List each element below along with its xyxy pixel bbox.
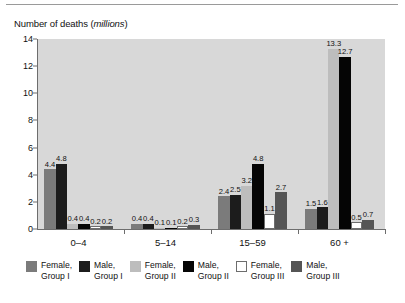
legend-label-line2: Group II xyxy=(198,271,229,282)
chart-title-unit: millions xyxy=(94,18,125,29)
bar-value-label: 0.7 xyxy=(363,211,374,219)
bar[interactable]: 0.4 xyxy=(131,224,142,229)
bar-fill xyxy=(317,207,328,229)
bar-value-label: 0.2 xyxy=(177,218,188,226)
bar-fill xyxy=(44,169,55,229)
legend-label: Male,Group II xyxy=(198,260,229,281)
bar-fill xyxy=(362,220,373,230)
bar-value-label: 1.1 xyxy=(264,205,275,213)
y-tick-label: 10 xyxy=(5,88,33,98)
bar[interactable]: 0.2 xyxy=(177,226,188,229)
legend-label-line1: Male, xyxy=(306,260,339,271)
bar-value-label: 4.8 xyxy=(56,155,67,163)
y-tick-mark xyxy=(33,201,37,202)
bar[interactable]: 0.1 xyxy=(154,228,165,229)
bar[interactable]: 4.4 xyxy=(44,169,55,229)
bar-fill xyxy=(328,49,339,230)
legend-item[interactable]: Male,Group II xyxy=(183,260,229,281)
bar-fill xyxy=(143,224,154,229)
chart-title-close: ) xyxy=(124,18,127,29)
bar-fill xyxy=(275,192,286,229)
bar-value-label: 0.2 xyxy=(90,218,101,226)
y-tick-mark xyxy=(33,66,37,67)
bar[interactable]: 4.8 xyxy=(252,164,263,229)
bar-value-label: 2.4 xyxy=(219,188,230,196)
y-tick-label: 4 xyxy=(5,170,33,180)
bar-fill xyxy=(351,222,362,229)
legend-item[interactable]: Female,Group I xyxy=(26,260,72,281)
legend-label-line2: Group II xyxy=(145,271,176,282)
bar-fill xyxy=(67,224,78,229)
legend-color-swatch xyxy=(130,261,141,272)
chart-legend: Female,Group IMale,Group IFemale,Group I… xyxy=(26,260,340,281)
bar[interactable]: 0.1 xyxy=(165,228,176,229)
bar[interactable]: 2.5 xyxy=(230,195,241,229)
legend-label-line1: Female, xyxy=(41,260,72,271)
legend-label-line2: Group III xyxy=(306,271,339,282)
bar-value-label: 4.4 xyxy=(45,161,56,169)
bar-fill xyxy=(339,57,350,229)
x-tick-mark xyxy=(124,229,125,234)
y-tick-mark xyxy=(33,93,37,94)
bar-group: 0.40.40.10.10.20.3 xyxy=(131,39,199,229)
bar-group: 2.42.53.24.81.12.7 xyxy=(218,39,286,229)
bar[interactable]: 13.3 xyxy=(328,49,339,230)
legend-label: Female,Group II xyxy=(145,260,176,281)
legend-label: Female,Group III xyxy=(251,260,284,281)
bar-value-label: 0.4 xyxy=(79,215,90,223)
bar-fill xyxy=(241,186,252,229)
bar[interactable]: 0.2 xyxy=(90,226,101,229)
bar-value-label: 0.4 xyxy=(132,215,143,223)
x-category-label: 60 + xyxy=(330,237,349,248)
bar[interactable]: 3.2 xyxy=(241,186,252,229)
bar[interactable]: 0.5 xyxy=(351,222,362,229)
legend-item[interactable]: Male,Group I xyxy=(79,260,123,281)
y-tick-mark xyxy=(33,120,37,121)
legend-color-swatch xyxy=(291,261,302,272)
legend-label-line2: Group III xyxy=(251,271,284,282)
y-tick-label: 14 xyxy=(5,34,33,44)
x-tick-mark xyxy=(385,229,386,234)
bar-value-label: 0.1 xyxy=(166,219,177,227)
bar[interactable]: 1.1 xyxy=(264,214,275,229)
bar[interactable]: 1.6 xyxy=(317,207,328,229)
bar[interactable]: 0.4 xyxy=(67,224,78,229)
bar-value-label: 0.4 xyxy=(67,215,78,223)
legend-color-swatch xyxy=(183,261,194,272)
bar-fill xyxy=(305,209,316,229)
bar[interactable]: 0.2 xyxy=(101,226,112,229)
bar[interactable]: 0.4 xyxy=(78,224,89,229)
bar[interactable]: 1.5 xyxy=(305,209,316,229)
bar-value-label: 1.6 xyxy=(317,199,328,207)
bar-group: 1.51.613.312.70.50.7 xyxy=(305,39,373,229)
legend-label-line2: Group I xyxy=(41,271,72,282)
legend-color-swatch xyxy=(79,261,90,272)
bar-fill xyxy=(78,224,89,229)
x-tick-mark xyxy=(298,229,299,234)
bar-value-label: 4.8 xyxy=(253,155,264,163)
bar[interactable]: 4.8 xyxy=(56,164,67,229)
legend-label: Male,Group I xyxy=(94,260,123,281)
top-divider-rule xyxy=(6,4,398,5)
bar-fill xyxy=(177,226,188,229)
bar[interactable]: 2.7 xyxy=(275,192,286,229)
bar-value-label: 12.7 xyxy=(338,48,353,56)
legend-item[interactable]: Male,Group III xyxy=(291,260,339,281)
legend-label-line1: Female, xyxy=(251,260,284,271)
bar-fill xyxy=(188,225,199,229)
bar-fill xyxy=(252,164,263,229)
bar[interactable]: 0.4 xyxy=(143,224,154,229)
x-category-label: 15–59 xyxy=(239,237,265,248)
bar[interactable]: 2.4 xyxy=(218,196,229,229)
legend-item[interactable]: Female,Group II xyxy=(130,260,176,281)
y-tick-mark xyxy=(33,39,37,40)
bar-group: 4.44.80.40.40.20.2 xyxy=(44,39,112,229)
legend-item[interactable]: Female,Group III xyxy=(236,260,284,281)
bar[interactable]: 0.3 xyxy=(188,225,199,229)
bar[interactable]: 0.7 xyxy=(362,220,373,230)
y-tick-mark xyxy=(33,229,37,230)
y-tick-label: 2 xyxy=(5,197,33,207)
bar-value-label: 2.7 xyxy=(276,184,287,192)
bar[interactable]: 12.7 xyxy=(339,57,350,229)
y-tick-mark xyxy=(33,147,37,148)
